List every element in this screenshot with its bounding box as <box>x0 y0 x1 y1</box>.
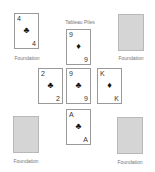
card-rank: A <box>69 111 74 118</box>
tableau-card-k-diamonds[interactable]: K ♦ K <box>97 68 122 104</box>
foundation-card-4-clubs[interactable]: 4 ♣ 4 <box>14 13 39 49</box>
foundation-label: Foundation <box>118 55 143 61</box>
card-rank: 9 <box>69 31 73 38</box>
tableau-piles-label: Tableau Piles <box>65 19 95 25</box>
card-rank: 9 <box>69 70 73 77</box>
foundation-label: Foundation <box>117 159 142 165</box>
tableau-card-a-clubs[interactable]: A ♣ A <box>66 109 91 145</box>
club-icon: ♣ <box>15 26 38 35</box>
card-rank: 2 <box>41 70 45 77</box>
card-rank: 9 <box>84 95 88 102</box>
card-rank: 4 <box>17 15 21 22</box>
card-rank: 4 <box>32 40 36 47</box>
card-rank: A <box>83 136 88 143</box>
diamond-icon: ♦ <box>67 42 90 51</box>
tableau-card-9-diamonds[interactable]: 9 ♦ 9 <box>66 29 91 65</box>
foundation-pile-empty[interactable] <box>13 116 39 153</box>
card-rank: 2 <box>56 95 60 102</box>
club-icon: ♣ <box>67 122 90 131</box>
diamond-icon: ♦ <box>98 81 121 90</box>
tableau-card-2-clubs[interactable]: 2 ♣ 2 <box>38 68 63 104</box>
card-rank: 9 <box>84 56 88 63</box>
foundation-pile-empty[interactable] <box>118 14 144 51</box>
club-icon: ♣ <box>67 81 90 90</box>
foundation-label: Foundation <box>14 55 39 61</box>
foundation-pile-empty[interactable] <box>117 117 143 154</box>
foundation-label: Foundation <box>13 158 38 164</box>
card-rank: K <box>100 70 105 77</box>
card-rank: K <box>114 95 119 102</box>
club-icon: ♣ <box>39 81 62 90</box>
tableau-card-9-clubs[interactable]: 9 ♣ 9 <box>66 68 91 104</box>
